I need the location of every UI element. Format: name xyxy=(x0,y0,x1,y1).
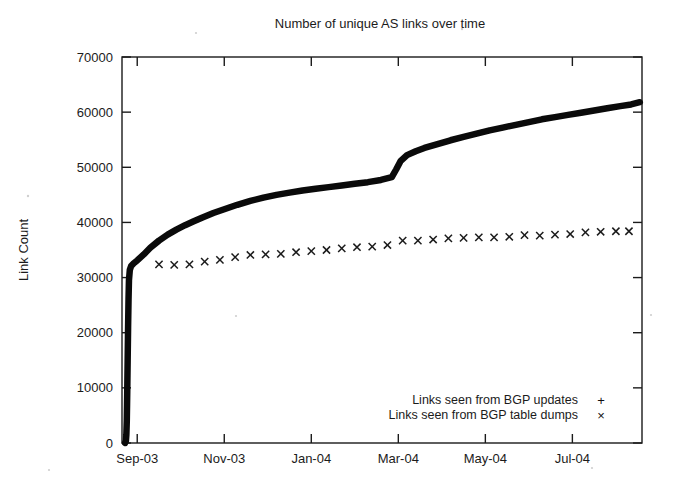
y-axis-label: Link Count xyxy=(16,219,31,282)
data-point-marker-x xyxy=(384,241,391,248)
data-point-marker-x xyxy=(262,251,269,258)
y-tick-label: 20000 xyxy=(77,325,113,340)
x-tick-label: Nov-03 xyxy=(203,451,245,466)
data-point-marker-x xyxy=(232,254,239,261)
data-point-marker-x xyxy=(323,246,330,253)
data-point-marker-x xyxy=(475,234,482,241)
data-point-marker-x xyxy=(247,251,254,258)
legend-label-2: Links seen from BGP table dumps xyxy=(389,408,578,422)
y-tick-label: 40000 xyxy=(77,215,113,230)
series-line-bgp-updates xyxy=(125,102,640,443)
data-point-marker-x xyxy=(536,232,543,239)
x-tick-label: Mar-04 xyxy=(378,451,419,466)
data-point-marker-x xyxy=(216,256,223,263)
y-tick-label: 70000 xyxy=(77,50,113,65)
data-point-marker-x xyxy=(445,235,452,242)
data-point-marker-x xyxy=(399,237,406,244)
legend-label-1: Links seen from BGP updates xyxy=(412,393,578,407)
data-point-marker-x xyxy=(338,245,345,252)
data-point-marker-x xyxy=(292,249,299,256)
data-point-marker-x xyxy=(506,233,513,240)
x-tick-label: Jan-04 xyxy=(291,451,331,466)
data-point-marker-x xyxy=(625,228,632,235)
x-tick-label: Sep-03 xyxy=(116,451,158,466)
data-point-marker-x xyxy=(369,243,376,250)
data-point-marker-x xyxy=(308,248,315,255)
series-layer xyxy=(125,102,640,443)
data-point-marker-x xyxy=(521,232,528,239)
data-point-marker-x xyxy=(353,244,360,251)
y-tick-label: 10000 xyxy=(77,380,113,395)
chart-legend: Links seen from BGP updates+Links seen f… xyxy=(389,393,605,423)
data-point-marker-x xyxy=(460,234,467,241)
data-point-marker-x xyxy=(430,236,437,243)
y-tick-label: 60000 xyxy=(77,105,113,120)
data-point-marker-x xyxy=(597,228,604,235)
data-point-marker-x xyxy=(490,234,497,241)
legend-marker-1-icon: + xyxy=(597,393,605,408)
chart-container: Number of unique AS links over time Link… xyxy=(0,0,678,485)
y-tick-label: 50000 xyxy=(77,160,113,175)
data-point-marker-x xyxy=(155,261,162,268)
data-point-marker-x xyxy=(186,261,193,268)
y-tick-label: 30000 xyxy=(77,270,113,285)
data-point-marker-x xyxy=(277,250,284,257)
series-1 xyxy=(125,102,640,443)
data-point-marker-x xyxy=(551,231,558,238)
y-tick-label: 0 xyxy=(106,436,113,451)
x-tick-label: Jul-04 xyxy=(555,451,590,466)
data-point-marker-x xyxy=(171,261,178,268)
legend-marker-2-icon: × xyxy=(597,408,605,423)
x-tick-label: May-04 xyxy=(464,451,507,466)
data-point-marker-x xyxy=(582,229,589,236)
data-point-marker-x xyxy=(201,258,208,265)
as-links-line-chart: Number of unique AS links over time Link… xyxy=(0,0,678,485)
data-point-marker-x xyxy=(414,237,421,244)
data-point-marker-x xyxy=(567,230,574,237)
chart-title: Number of unique AS links over time xyxy=(275,16,485,31)
series-2 xyxy=(155,228,632,269)
data-point-marker-x xyxy=(612,228,619,235)
